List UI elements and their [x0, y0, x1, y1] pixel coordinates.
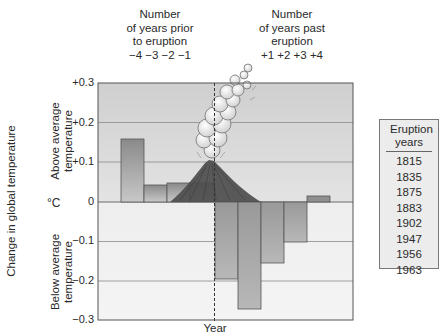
- bar-plus-2: [238, 202, 261, 309]
- legend-title-line: Eruption: [390, 123, 428, 136]
- bar-plus-4: [284, 202, 307, 242]
- legend-year: 1963: [380, 263, 438, 279]
- legend-title: Eruption years: [386, 120, 432, 152]
- legend-year: 1947: [380, 232, 438, 248]
- legend-year: 1815: [380, 154, 438, 170]
- bar-plus-5: [307, 196, 330, 202]
- legend-year: 1883: [380, 201, 438, 217]
- bar-plus-1: [215, 202, 238, 279]
- x-axis-label: Year: [198, 322, 232, 334]
- bar-plus-3: [261, 202, 284, 263]
- eruption-years-legend: Eruption years 1815 1835 1875 1883 1902 …: [379, 119, 439, 269]
- legend-title-line: years: [390, 136, 428, 149]
- legend-year: 1875: [380, 185, 438, 201]
- bar-minus-3: [144, 185, 167, 202]
- legend-year: 1835: [380, 170, 438, 186]
- bar-minus-4: [121, 139, 144, 202]
- plot-area: [0, 0, 444, 336]
- legend-year: 1956: [380, 247, 438, 263]
- legend-year: 1902: [380, 216, 438, 232]
